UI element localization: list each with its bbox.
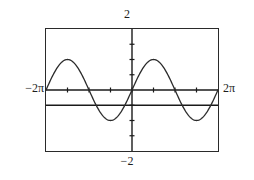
plot-frame bbox=[45, 28, 219, 152]
y-min-label: −2 bbox=[0, 155, 254, 167]
plot-canvas bbox=[46, 29, 218, 151]
x-min-label: −2π bbox=[4, 82, 44, 94]
y-max-label: 2 bbox=[0, 8, 254, 20]
x-max-label: 2π bbox=[223, 82, 254, 94]
graph-screenshot: 2 −2π 2π −2 bbox=[0, 0, 254, 180]
